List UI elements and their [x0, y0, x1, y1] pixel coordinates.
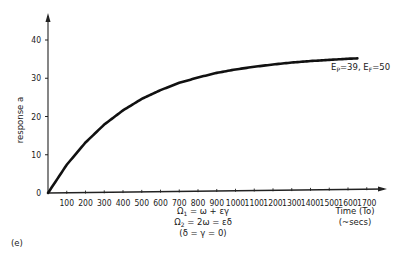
x-tick-label: 100 — [59, 198, 74, 208]
y-axis-label: response a — [15, 97, 25, 144]
x-axis-label-line1: Time (To) — [334, 206, 374, 216]
y-tick-label: 0 — [36, 188, 41, 198]
equation-condition: (δ = γ = 0) — [179, 228, 226, 238]
response-curve — [48, 58, 357, 193]
x-tick-label: 500 — [134, 198, 149, 208]
x-axis-arrow-icon — [378, 187, 387, 192]
x-tick-label: 400 — [116, 198, 131, 208]
y-tick-label: 30 — [31, 73, 41, 83]
x-tick-label: 1100 — [245, 198, 265, 208]
x-axis — [48, 189, 384, 193]
y-tick-label: 10 — [31, 150, 41, 160]
x-tick-label: 1400 — [301, 198, 321, 208]
x-tick-label: 200 — [78, 198, 93, 208]
response-chart: 0102030401002003004005006007008009001000… — [0, 0, 403, 255]
curve-annotation: EP=39, EF=50 — [331, 62, 390, 73]
panel-label: (e) — [11, 238, 23, 248]
x-tick-label: 600 — [153, 198, 168, 208]
y-tick-label: 40 — [31, 35, 41, 45]
axes — [46, 13, 388, 193]
equation-omega2: Ω2 = 2ω = εδ — [174, 217, 232, 228]
x-tick-label: 300 — [97, 198, 112, 208]
x-tick-label: 1200 — [263, 198, 283, 208]
y-tick-label: 20 — [31, 112, 41, 122]
y-axis-arrow-icon — [46, 13, 51, 22]
x-axis-label-line2: (~secs) — [339, 217, 372, 227]
x-tick-label: 1300 — [282, 198, 302, 208]
